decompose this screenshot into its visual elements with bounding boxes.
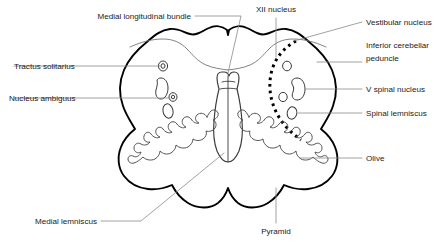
left-bean-nucleus xyxy=(156,78,168,99)
label-spinal-lemniscus: Spinal lemniscus xyxy=(366,109,427,118)
label-medial-lemniscus: Medial lemniscus xyxy=(35,217,97,226)
v-spinal-nucleus xyxy=(292,78,305,100)
label-pyramid: Pyramid xyxy=(261,227,291,236)
label-xii-nucleus: XII nucleus xyxy=(256,5,296,14)
label-v-spinal-nucleus: V spinal nucleus xyxy=(366,85,425,94)
right-circle-nucleus xyxy=(279,92,287,101)
label-inferior-cerebellar-peduncle-line2: peduncle xyxy=(366,54,399,63)
medulla-cross-section-figure: Medial longitudinal bundle XII nucleus V… xyxy=(0,0,448,243)
label-tractus-solitarius: Tractus solitarius xyxy=(14,62,75,71)
label-medial-longitudinal-bundle: Medial longitudinal bundle xyxy=(97,12,191,21)
label-vestibular-nucleus: Vestibular nucleus xyxy=(366,18,432,27)
leader-vestibular-nucleus xyxy=(294,22,362,41)
label-olive: Olive xyxy=(366,154,385,163)
central-flask-structure xyxy=(214,72,243,162)
label-inferior-cerebellar-peduncle-line1: Inferior cerebellar xyxy=(366,41,429,50)
label-nucleus-ambiguus: Nucleus ambiguus xyxy=(9,94,76,103)
right-small-circle-nucleus xyxy=(283,61,292,71)
